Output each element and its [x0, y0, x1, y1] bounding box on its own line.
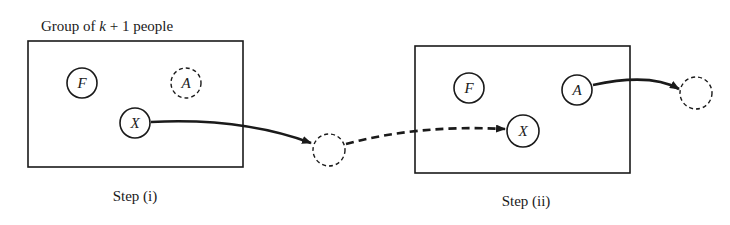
node-a-step-ii: A	[562, 75, 592, 105]
node-label: F	[76, 75, 87, 91]
empty-slot-middle-dashed	[313, 134, 345, 166]
step-ii-label: Step (ii)	[502, 193, 551, 210]
node-a-step-i-dashed: A	[171, 68, 201, 98]
empty-slot-right-dashed	[680, 77, 712, 109]
node-x-step-i: X	[120, 108, 150, 138]
arrow-a-leaves-group	[593, 80, 679, 89]
step-i-group: F A X Step (i)	[28, 41, 311, 205]
step-i-label: Step (i)	[113, 188, 158, 205]
node-f-step-i: F	[67, 68, 97, 98]
node-label: X	[129, 115, 140, 131]
group-box-step-ii	[415, 46, 630, 173]
group-title: Group of k + 1 people	[41, 18, 174, 34]
group-box-step-i	[28, 41, 243, 167]
node-f-step-ii: F	[454, 73, 484, 103]
node-label: A	[180, 75, 191, 91]
node-label: X	[517, 123, 528, 139]
node-label: F	[463, 80, 474, 96]
node-x-step-ii: X	[507, 115, 539, 147]
arrow-x-leaves-group	[151, 121, 311, 143]
dashed-arrow-x-joins-group	[346, 128, 505, 144]
node-label: A	[571, 82, 582, 98]
induction-diagram: Group of k + 1 people F A X Step (i) F	[0, 0, 730, 225]
